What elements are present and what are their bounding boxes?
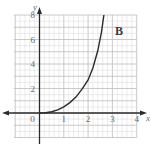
y-axis-up-arrow-icon <box>37 7 42 14</box>
y-tick-label: 6 <box>31 35 36 45</box>
panel-label: B <box>115 24 123 38</box>
x-axis-left-arrow-icon <box>2 111 9 116</box>
x-tick-label: 2 <box>86 114 91 124</box>
y-tick-label: 2 <box>31 84 36 94</box>
y-tick-label: 4 <box>31 59 36 69</box>
x-tick-label: 4 <box>134 114 139 124</box>
x-tick-label: 1 <box>62 114 67 124</box>
function-graph: 012342468 x y B <box>0 0 151 144</box>
x-tick-label: 0 <box>30 114 35 124</box>
x-tick-label: 3 <box>110 114 115 124</box>
y-axis-label: y <box>32 2 37 12</box>
x-axis-label: x <box>145 113 150 123</box>
